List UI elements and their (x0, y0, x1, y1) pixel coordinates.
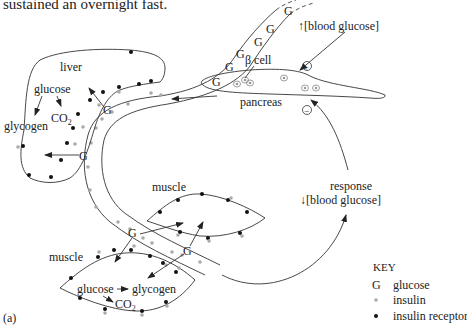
minus-sign: − (304, 106, 309, 116)
key-receptor-label: insulin receptor (393, 309, 467, 323)
muscle-glycogen-label: glycogen (132, 282, 176, 296)
svg-text:G: G (284, 4, 293, 18)
liver-glucose-label: glucose (34, 82, 71, 96)
svg-text:G: G (79, 149, 88, 163)
svg-text:G: G (183, 244, 192, 258)
key-title: KEY (373, 261, 396, 273)
key-insulin-label: insulin (393, 293, 426, 307)
muscle-co2-label: CO2 (115, 297, 136, 313)
blood-glucose-up-label: ↑[blood glucose] (298, 19, 379, 33)
svg-text:G: G (236, 47, 245, 61)
insulin-glucose-diagram: sustained an overnight fast. G G G G G G (0, 0, 467, 330)
liver-co2-label: CO2 (51, 111, 72, 127)
muscle-upper: muscle (147, 180, 265, 243)
plus-sign: + (304, 62, 309, 72)
caption-text: sustained an overnight fast. (3, 0, 167, 13)
liver-glycogen-label: glycogen (4, 119, 48, 133)
pancreas-label: pancreas (240, 95, 282, 109)
svg-text:G: G (266, 22, 275, 36)
pancreas: β cell pancreas ↑[blood glucose] + − (172, 19, 385, 116)
panel-label: (a) (3, 311, 16, 325)
blood-glucose-down-label: ↓[blood glucose] (300, 193, 381, 207)
svg-text:G: G (254, 35, 263, 49)
liver: liver glucose CO2 glycogen G G (4, 49, 165, 182)
response-feedback: response ↓[blood glucose] (222, 100, 381, 284)
key-glucose-label: glucose (393, 278, 430, 292)
liver-label: liver (60, 60, 82, 74)
svg-text:G: G (103, 103, 112, 117)
diagram-svg: G G G G G G (0, 0, 467, 330)
glucose-uptake-arrows: G G (115, 222, 203, 278)
muscle-upper-label: muscle (152, 180, 186, 194)
muscle-lower-label: muscle (49, 250, 83, 264)
key-legend: KEY G glucose insulin insulin receptor (372, 261, 467, 323)
svg-text:G: G (128, 226, 137, 240)
response-label: response (330, 179, 372, 193)
key-glucose-symbol: G (372, 278, 381, 292)
key-insulin-icon (374, 298, 378, 302)
muscle-lower: muscle glucose glycogen CO2 (49, 244, 195, 317)
key-receptor-icon (374, 314, 378, 318)
muscle-glucose-label: glucose (77, 282, 114, 296)
beta-cell-label: β cell (245, 53, 272, 67)
blood-vessel (84, 0, 314, 275)
svg-text:G: G (212, 75, 221, 89)
